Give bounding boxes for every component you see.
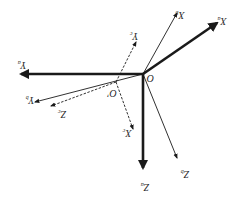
axis-label-y-a: Ya bbox=[18, 60, 27, 71]
axis-label-z-a: Za bbox=[141, 182, 150, 193]
axis-z-b-arrow bbox=[143, 74, 177, 158]
axis-label-z-b: Zb bbox=[181, 169, 190, 180]
frame-b-thin-axes bbox=[35, 13, 177, 158]
axis-label-y-c: Yc bbox=[130, 31, 139, 42]
axis-x-a-arrow bbox=[143, 23, 217, 74]
axis-x-c-arrow bbox=[116, 82, 133, 129]
origin-o-prime-label: O′ bbox=[106, 88, 116, 99]
origin-o-label: O bbox=[146, 73, 153, 84]
axis-y-c-arrow bbox=[116, 42, 136, 82]
axis-label-z-c: Zc bbox=[58, 109, 67, 120]
coordinate-frames-diagram: OO′ XaYaZaXbYbZbXcYcZc bbox=[0, 0, 240, 202]
axis-label-y-b: Yb bbox=[26, 95, 35, 106]
axis-label-x-c: Xc bbox=[122, 128, 132, 139]
frame-a-thick-axes bbox=[21, 23, 217, 168]
axis-z-c-arrow bbox=[51, 82, 116, 106]
axis-y-b-arrow bbox=[35, 74, 143, 102]
axis-label-x-a: Xa bbox=[217, 16, 227, 27]
axis-label-x-b: Xb bbox=[175, 10, 185, 21]
axis-x-b-arrow bbox=[143, 13, 177, 74]
